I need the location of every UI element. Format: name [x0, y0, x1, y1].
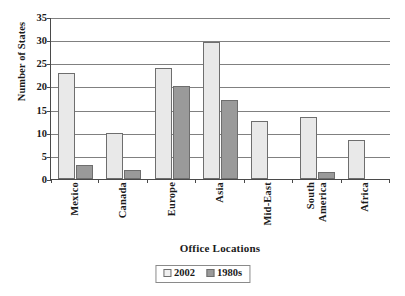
x-tick-label-word: South [305, 182, 316, 209]
x-tick-label-word: Canada [117, 182, 128, 218]
bar [58, 73, 75, 179]
y-tick-label: 35 [21, 13, 47, 24]
x-tick-label-word: America [317, 182, 328, 222]
x-tick-label: Mid-East [244, 182, 292, 240]
bar [173, 86, 190, 179]
bar [300, 117, 317, 179]
x-tick-label-word: Mid-East [262, 182, 273, 226]
bar [348, 140, 365, 179]
legend-entry[interactable]: 2002 [163, 268, 195, 279]
y-tick-label: 25 [21, 59, 47, 70]
bar-group [51, 18, 99, 179]
x-tick-label-word: Mexico [69, 182, 80, 216]
bar-group [245, 18, 293, 179]
bar-group [342, 18, 390, 179]
bars-layer [51, 18, 390, 179]
bar [155, 68, 172, 179]
bar [106, 133, 123, 179]
x-tick-label: Europe [147, 182, 195, 240]
legend-swatch-icon [206, 269, 214, 277]
x-tick-label-word: Africa [359, 182, 370, 212]
bar-group [196, 18, 244, 179]
y-axis-tick-labels: 05101520253035 [21, 18, 47, 180]
y-tick-label: 0 [21, 175, 47, 186]
legend-label: 2002 [174, 268, 195, 279]
y-tick-label: 20 [21, 82, 47, 93]
y-tick-label: 30 [21, 36, 47, 47]
x-tick-label-word: Asia [214, 182, 225, 203]
bar-group [148, 18, 196, 179]
bar [203, 42, 220, 179]
bar [251, 121, 268, 179]
x-tick-label: Africa [341, 182, 389, 240]
y-tick-label: 5 [21, 152, 47, 163]
legend-label: 1980s [217, 268, 242, 279]
x-axis-title: Office Locations [50, 242, 390, 254]
y-tick-label: 15 [21, 105, 47, 116]
chart-legend: 20021980s [155, 265, 250, 283]
bar [124, 170, 141, 179]
x-tick-label: Asia [195, 182, 243, 240]
y-tick-label: 10 [21, 128, 47, 139]
legend-entry[interactable]: 1980s [206, 268, 242, 279]
bar-chart: Number of States 05101520253035 MexicoCa… [0, 0, 405, 296]
bar [318, 172, 335, 179]
legend-swatch-icon [163, 269, 171, 277]
x-tick-label: SouthAmerica [292, 182, 340, 240]
bar [221, 100, 238, 179]
plot-area [50, 18, 390, 180]
bar-group [293, 18, 341, 179]
x-axis-tick-labels: MexicoCanadaEuropeAsiaMid-EastSouthAmeri… [50, 182, 390, 240]
bar [76, 165, 93, 179]
x-tick-label-word: Europe [166, 182, 177, 216]
x-tick-label: Mexico [50, 182, 98, 240]
bar-group [99, 18, 147, 179]
x-tick-label: Canada [98, 182, 146, 240]
